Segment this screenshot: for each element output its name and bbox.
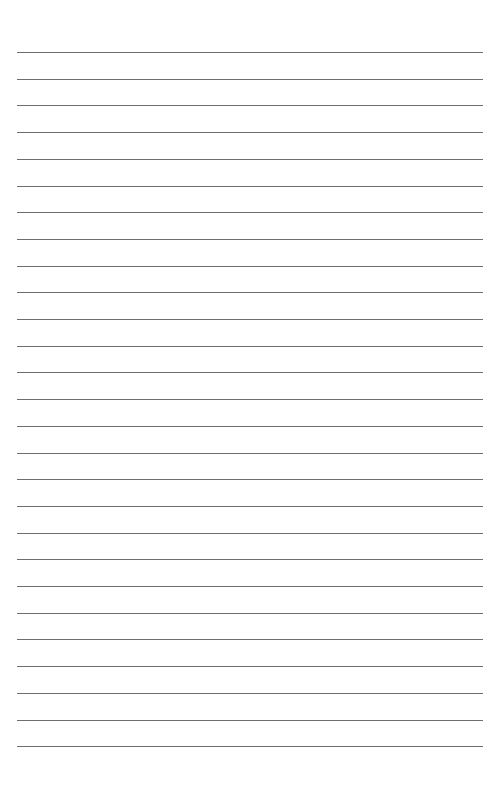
ruled-line <box>17 186 483 187</box>
ruled-line <box>17 346 483 347</box>
ruled-line <box>17 479 483 480</box>
ruled-line <box>17 212 483 213</box>
ruled-line <box>17 746 483 747</box>
ruled-line <box>17 559 483 560</box>
ruled-line <box>17 399 483 400</box>
ruled-line <box>17 239 483 240</box>
ruled-line <box>17 132 483 133</box>
ruled-line <box>17 666 483 667</box>
ruled-line <box>17 639 483 640</box>
ruled-line <box>17 426 483 427</box>
ruled-line <box>17 693 483 694</box>
ruled-line <box>17 266 483 267</box>
ruled-line <box>17 159 483 160</box>
ruled-line <box>17 372 483 373</box>
ruled-line <box>17 105 483 106</box>
ruled-line <box>17 319 483 320</box>
ruled-line <box>17 533 483 534</box>
ruled-line <box>17 292 483 293</box>
ruled-line <box>17 586 483 587</box>
ruled-line <box>17 453 483 454</box>
ruled-line <box>17 613 483 614</box>
ruled-line <box>17 52 483 53</box>
ruled-line <box>17 720 483 721</box>
ruled-line <box>17 506 483 507</box>
ruled-line <box>17 79 483 80</box>
lined-paper-page <box>0 0 501 790</box>
